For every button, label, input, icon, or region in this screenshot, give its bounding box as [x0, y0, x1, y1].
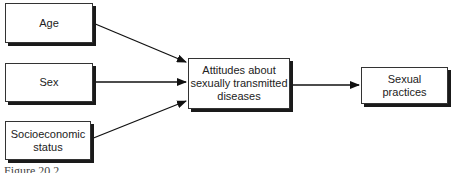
node-practices-label-line2: practices [382, 86, 426, 99]
node-sex: Sex [5, 63, 93, 102]
node-socioeconomic-status: Socioeconomic status [5, 121, 91, 160]
node-attitudes-label-line1: Attitudes about [202, 64, 275, 77]
node-ses-label-line1: Socioeconomic [11, 128, 86, 141]
node-practices-label-line1: Sexual [388, 73, 422, 86]
node-sex-label: Sex [40, 76, 59, 89]
edge-age-to-attitudes [93, 23, 186, 62]
figure-caption: Figure 20.2 [4, 164, 59, 173]
node-age-label: Age [39, 17, 59, 30]
node-age: Age [5, 3, 93, 43]
node-ses-label-line2: status [33, 141, 62, 154]
node-sexual-practices: Sexual practices [361, 67, 448, 104]
edge-ses-to-attitudes [91, 101, 186, 139]
node-attitudes-label-line2: sexually transmitted [190, 77, 287, 90]
node-attitudes-label-line3: diseases [217, 90, 260, 103]
node-attitudes: Attitudes about sexually transmitted dis… [188, 58, 290, 109]
